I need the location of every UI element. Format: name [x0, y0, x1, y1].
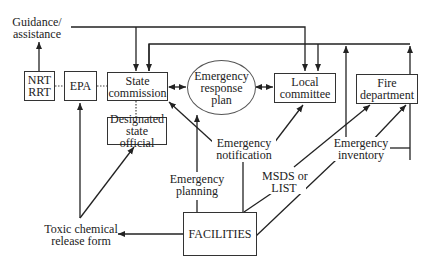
node-line: RRT — [28, 86, 51, 98]
label-line: release form — [44, 235, 118, 247]
node-line: Emergency — [194, 70, 248, 82]
emergency-planning-label: Emergency planning — [168, 173, 226, 197]
msds-list-label: MSDS or LIST — [262, 170, 306, 194]
label-line: assistance — [3, 28, 71, 40]
emergency-notification-label: Emergency notification — [212, 137, 276, 161]
label-line: planning — [168, 185, 226, 197]
fire-department-box: Fire department — [356, 74, 418, 104]
node-line: response — [194, 82, 248, 94]
epa-box: EPA — [64, 71, 97, 101]
node-line: state official — [108, 125, 166, 149]
node-label: EPA — [70, 80, 92, 92]
emergency-inventory-label: Emergency inventory — [332, 137, 390, 161]
label-line: inventory — [332, 149, 390, 161]
node-line: committee — [280, 88, 331, 100]
node-line: department — [360, 89, 414, 101]
nrt-rrt-box: NRT RRT — [24, 71, 55, 101]
local-committee-box: Local committee — [274, 73, 336, 103]
state-commission-box: State commission — [107, 72, 168, 101]
node-line: plan — [194, 94, 248, 106]
label-line: LIST — [262, 182, 306, 194]
node-label: FACILITIES — [188, 228, 251, 240]
node-line: commission — [108, 87, 166, 99]
toxic-chemical-release-label: Toxic chemical release form — [44, 223, 118, 247]
emergency-response-plan-ellipse: Emergency response plan — [187, 60, 256, 115]
designated-state-official-box: Designated state official — [107, 117, 167, 145]
facilities-box: FACILITIES — [183, 212, 257, 256]
label-line: notification — [212, 149, 276, 161]
guidance-assistance-label: Guidance/ assistance — [3, 16, 71, 40]
node-line: State — [108, 75, 166, 87]
